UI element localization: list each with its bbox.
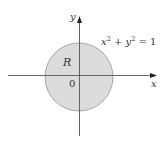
region-disk [45, 43, 113, 111]
equation-rhs: = 1 [135, 36, 156, 47]
y-axis-label: y [69, 11, 76, 22]
diagram-canvas: y x R 0 x2 + y2 = 1 [0, 0, 166, 144]
x-axis-label: x [151, 78, 157, 89]
y-axis-arrow-icon [77, 16, 82, 23]
circle-equation: x2 + y2 = 1 [101, 35, 156, 47]
origin-label: 0 [69, 78, 75, 89]
equation-plus: + [111, 36, 126, 47]
region-label: R [62, 56, 71, 69]
